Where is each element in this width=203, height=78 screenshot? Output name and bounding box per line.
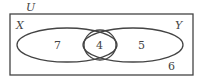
set-y-label: Y	[175, 19, 184, 32]
outside-value: 6	[168, 60, 175, 73]
x-only-value: 7	[54, 39, 61, 52]
intersection-value: 4	[96, 39, 103, 52]
universe-label: U	[26, 1, 36, 14]
venn-diagram: U X Y 7 4 5 6	[0, 0, 203, 78]
y-only-value: 5	[138, 39, 145, 52]
set-x-label: X	[15, 19, 25, 32]
